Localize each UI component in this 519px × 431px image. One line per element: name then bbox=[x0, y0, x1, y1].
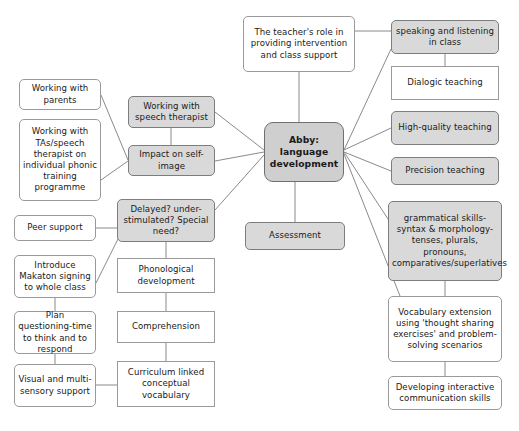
node-vocabulary-extension[interactable]: Vocabulary extension using 'thought shar… bbox=[388, 296, 502, 362]
node-label-introduce-makaton: Introduce Makaton signing to whole class bbox=[18, 260, 92, 294]
node-working-with-parents[interactable]: Working with parents bbox=[19, 79, 101, 110]
node-label-dialogic-teaching: Dialogic teaching bbox=[395, 77, 495, 88]
node-dialogic-teaching[interactable]: Dialogic teaching bbox=[391, 66, 499, 100]
node-label-abby-centre: Abby: language development bbox=[268, 134, 340, 170]
node-impact-self-image[interactable]: Impact on self-image bbox=[128, 145, 215, 176]
mind-map-canvas: The teacher's role in providing interven… bbox=[0, 0, 519, 431]
node-introduce-makaton[interactable]: Introduce Makaton signing to whole class bbox=[14, 255, 96, 298]
node-label-impact-self-image: Impact on self-image bbox=[132, 149, 211, 171]
edge-delayed-understimulated-to-abby-centre bbox=[215, 155, 264, 210]
node-delayed-understimulated[interactable]: Delayed? under-stimulated? Special need? bbox=[117, 199, 215, 242]
node-precision-teaching[interactable]: Precision teaching bbox=[391, 157, 499, 185]
node-label-working-with-parents: Working with parents bbox=[23, 83, 97, 105]
node-label-teachers-role: The teacher's role in providing interven… bbox=[247, 27, 351, 61]
node-label-plan-questioning: Plan questioning-time to think and to re… bbox=[18, 310, 92, 355]
node-label-phonological-development: Phonological development bbox=[121, 264, 211, 286]
node-label-assessment: Assessment bbox=[249, 230, 341, 241]
node-label-comprehension: Comprehension bbox=[121, 321, 211, 332]
node-plan-questioning[interactable]: Plan questioning-time to think and to re… bbox=[14, 311, 96, 354]
node-assessment[interactable]: Assessment bbox=[245, 222, 345, 250]
node-visual-multisensory[interactable]: Visual and multi-sensory support bbox=[14, 364, 96, 407]
node-label-delayed-understimulated: Delayed? under-stimulated? Special need? bbox=[121, 204, 211, 238]
node-comprehension[interactable]: Comprehension bbox=[117, 311, 215, 343]
node-label-working-with-tas: Working with TAs/speech therapist on ind… bbox=[23, 126, 97, 193]
edge-working-with-tas-to-impact-self-image bbox=[101, 161, 128, 180]
edge-abby-centre-to-high-quality-teaching bbox=[344, 128, 391, 150]
node-label-high-quality-teaching: High-quality teaching bbox=[395, 122, 495, 133]
node-grammatical-skills[interactable]: grammatical skills-syntax & morphology-t… bbox=[388, 201, 502, 281]
node-speaking-listening[interactable]: speaking and listening in class bbox=[391, 20, 499, 54]
edge-impact-self-image-to-abby-centre bbox=[215, 152, 264, 161]
node-label-precision-teaching: Precision teaching bbox=[395, 165, 495, 176]
node-peer-support[interactable]: Peer support bbox=[14, 215, 96, 241]
node-label-grammatical-skills: grammatical skills-syntax & morphology-t… bbox=[392, 213, 498, 269]
edge-abby-centre-to-grammatical-skills bbox=[344, 152, 390, 222]
edge-working-with-parents-to-impact-self-image bbox=[101, 95, 128, 160]
edge-abby-centre-to-precision-teaching bbox=[344, 152, 391, 171]
node-phonological-development[interactable]: Phonological development bbox=[117, 258, 215, 293]
node-curriculum-linked[interactable]: Curriculum linked conceptual vocabulary bbox=[117, 361, 215, 407]
node-label-speaking-listening: speaking and listening in class bbox=[395, 26, 495, 48]
node-label-curriculum-linked: Curriculum linked conceptual vocabulary bbox=[121, 367, 211, 401]
node-label-visual-multisensory: Visual and multi-sensory support bbox=[18, 374, 92, 396]
node-label-developing-interactive: Developing interactive communication ski… bbox=[392, 382, 498, 404]
node-high-quality-teaching[interactable]: High-quality teaching bbox=[391, 111, 499, 145]
node-label-working-speech-therapist: Working with speech therapist bbox=[132, 101, 211, 123]
node-abby-centre[interactable]: Abby: language development bbox=[264, 122, 344, 182]
edge-working-speech-therapist-to-abby-centre bbox=[215, 112, 264, 150]
node-label-peer-support: Peer support bbox=[18, 222, 92, 233]
node-label-vocabulary-extension: Vocabulary extension using 'thought shar… bbox=[392, 307, 498, 352]
node-teachers-role[interactable]: The teacher's role in providing interven… bbox=[243, 16, 355, 72]
node-developing-interactive[interactable]: Developing interactive communication ski… bbox=[388, 376, 502, 410]
node-working-speech-therapist[interactable]: Working with speech therapist bbox=[128, 96, 215, 128]
node-working-with-tas[interactable]: Working with TAs/speech therapist on ind… bbox=[19, 119, 101, 201]
